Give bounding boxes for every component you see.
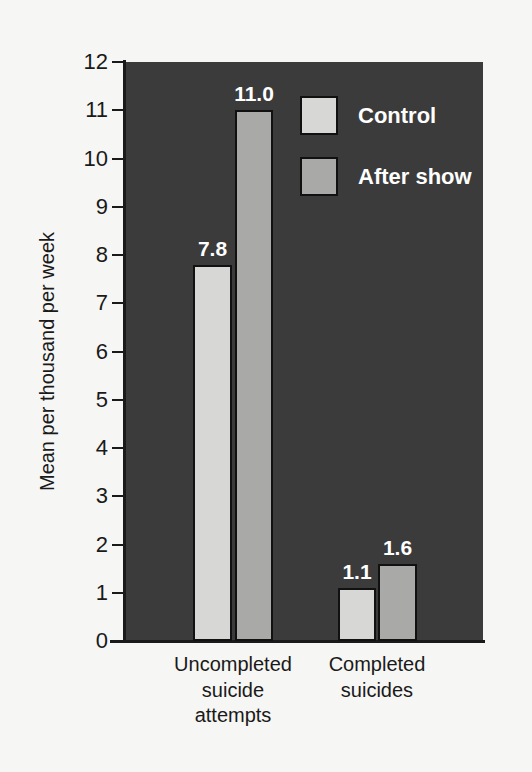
y-axis-tick-label: 12 (66, 51, 108, 73)
y-axis-tick-label: 3 (66, 485, 108, 507)
legend-swatch-control (300, 96, 338, 135)
x-axis-category-label-line: attempts (118, 703, 348, 729)
bar-control (338, 588, 376, 641)
y-axis-tick-label: 10 (66, 148, 108, 170)
y-axis-tick-label: 8 (66, 244, 108, 266)
y-axis-tick-labels: 1211109876543210 (60, 0, 108, 772)
x-axis-category-label: Completedsuicides (262, 652, 492, 703)
legend-swatch-after-show (300, 157, 338, 196)
y-axis-tick-label: 1 (66, 582, 108, 604)
y-axis-tick (112, 447, 124, 449)
y-axis-tick (112, 399, 124, 401)
x-axis-category-label-line: suicides (262, 678, 492, 704)
y-axis-tick-label: 11 (66, 99, 108, 121)
y-axis-tick (112, 109, 124, 111)
bar-control (193, 265, 232, 641)
y-axis-tick-label: 2 (66, 534, 108, 556)
legend-label-control: Control (358, 103, 436, 129)
chart-legend: Control After show (300, 96, 472, 218)
bar-chart-figure: 1211109876543210 Mean per thousand per w… (0, 0, 532, 772)
y-axis-tick-label: 7 (66, 292, 108, 314)
y-axis-tick (112, 495, 124, 497)
y-axis-tick (112, 61, 124, 63)
y-axis-tick (112, 254, 124, 256)
y-axis-tick-label: 9 (66, 196, 108, 218)
y-axis-tick (112, 640, 124, 642)
x-axis-line (110, 640, 485, 643)
y-axis-title: Mean per thousand per week (36, 197, 59, 527)
bar-value-label: 11.0 (234, 82, 274, 106)
y-axis-tick (112, 351, 124, 353)
bar-after-show (235, 110, 273, 641)
legend-item-control: Control (300, 96, 472, 135)
x-axis-category-label-line: Completed (262, 652, 492, 678)
legend-label-after-show: After show (358, 164, 472, 190)
y-axis-tick (112, 592, 124, 594)
bar-value-label: 1.1 (342, 560, 371, 584)
y-axis-tick (112, 158, 124, 160)
y-axis-tick (112, 206, 124, 208)
y-axis-tick (112, 544, 124, 546)
bar-value-label: 1.6 (383, 536, 412, 560)
y-axis-tick-label: 6 (66, 341, 108, 363)
legend-item-after-show: After show (300, 157, 472, 196)
y-axis-tick (112, 302, 124, 304)
bar-value-label: 7.8 (198, 237, 227, 261)
y-axis-tick-label: 0 (66, 630, 108, 652)
y-axis-tick-label: 5 (66, 389, 108, 411)
y-axis-tick-label: 4 (66, 437, 108, 459)
bar-after-show (378, 564, 417, 641)
